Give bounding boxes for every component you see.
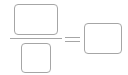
result-input[interactable]: [84, 23, 122, 54]
numerator-input[interactable]: [14, 4, 58, 35]
denominator-input[interactable]: [21, 43, 51, 73]
equals-line-top: [65, 37, 80, 38]
equals-line-bottom: [65, 41, 80, 42]
fraction-bar: [10, 38, 62, 39]
